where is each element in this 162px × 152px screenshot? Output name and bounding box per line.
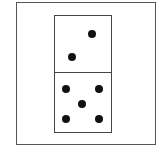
top-pip-icon [88, 30, 96, 38]
bottom-pip-icon [78, 100, 86, 108]
bottom-pip-icon [95, 115, 103, 123]
domino-divider [54, 72, 112, 73]
bottom-pip-icon [62, 115, 70, 123]
bottom-pip-icon [62, 85, 70, 93]
top-pip-icon [68, 53, 76, 61]
bottom-pip-icon [95, 85, 103, 93]
